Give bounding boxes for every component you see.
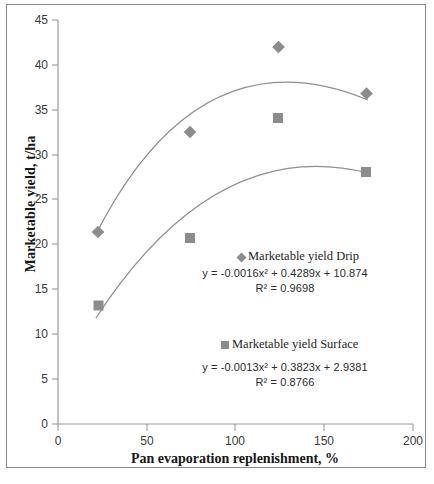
equation-drip-r2: R² = 0.9698 [185, 282, 385, 294]
data-point-surface [185, 233, 195, 243]
trend-curve-surface [96, 166, 368, 318]
x-tick-label: 0 [38, 434, 78, 448]
data-point-drip [272, 41, 285, 54]
data-point-surface [94, 301, 104, 311]
legend-label-drip: Marketable yield Drip [248, 249, 359, 263]
legend-square-icon [221, 341, 229, 349]
y-tick-label: 10 [18, 327, 48, 341]
series-markers-surface [94, 113, 372, 311]
data-point-surface [273, 113, 283, 123]
y-tick-label: 5 [18, 372, 48, 386]
chart-figure: 45 40 35 30 25 20 15 10 5 0 0 50 100 150… [0, 0, 434, 484]
equation-surface-line1: y = -0.0013x² + 0.3823x + 2.9381 [185, 361, 385, 373]
x-tick-label: 50 [127, 434, 167, 448]
legend-label-surface: Marketable yield Surface [232, 337, 358, 351]
equation-drip-line1: y = -0.0016x² + 0.4289x + 10.874 [185, 267, 385, 279]
y-tick-label: 40 [18, 58, 48, 72]
data-point-surface [361, 167, 371, 177]
x-axis-title: Pan evaporation replenishment, % [40, 451, 430, 467]
x-tick-label: 100 [215, 434, 255, 448]
legend-diamond-icon [237, 252, 247, 262]
legend-item-drip: Marketable yield Drip [238, 249, 359, 264]
data-point-drip [92, 226, 105, 239]
x-tick-label: 200 [393, 434, 433, 448]
plot-canvas [0, 0, 434, 484]
y-axis-title: Marketable yield, t/ha [23, 89, 39, 319]
trend-curve-drip [96, 82, 368, 234]
y-tick-marks [52, 20, 58, 424]
data-point-drip [184, 126, 197, 139]
series-markers-drip [92, 41, 373, 239]
x-tick-label: 150 [304, 434, 344, 448]
y-tick-label: 45 [18, 13, 48, 27]
legend-item-surface: Marketable yield Surface [221, 337, 358, 352]
equation-surface-r2: R² = 0.8766 [185, 376, 385, 388]
y-tick-label: 0 [18, 417, 48, 431]
x-tick-marks [58, 424, 413, 431]
